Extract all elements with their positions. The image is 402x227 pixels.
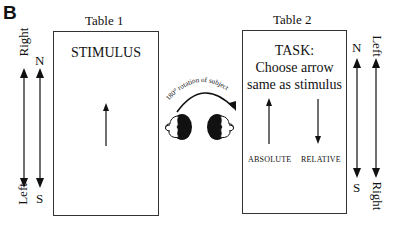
arrowhead-up-icon <box>20 68 28 78</box>
left-outer-double-arrow <box>20 68 28 188</box>
rotation-label: 180° rotation of subject <box>164 76 230 102</box>
relative-arrow-down-icon <box>315 99 321 144</box>
subject-head-left-icon <box>166 114 193 140</box>
subject-head-right-icon <box>207 114 234 140</box>
arrowhead-down-icon <box>36 178 44 188</box>
right-outer-double-arrow <box>372 58 380 178</box>
right-inner-double-arrow <box>353 58 361 178</box>
arrowhead-icon <box>229 101 236 111</box>
arrowhead-up-icon <box>36 68 44 78</box>
stimulus-arrow-up-icon <box>103 103 109 146</box>
diagram-graphics: 180° rotation of subject <box>0 0 402 227</box>
arrowhead-down-icon <box>20 178 28 188</box>
rotation-arc-arrow <box>177 93 236 112</box>
left-inner-double-arrow <box>36 68 44 188</box>
arrowhead-down-icon <box>372 168 380 178</box>
absolute-arrow-up-icon <box>266 98 272 144</box>
arrowhead-down-icon <box>353 168 361 178</box>
arrowhead-up-icon <box>372 58 380 68</box>
arrowhead-up-icon <box>353 58 361 68</box>
